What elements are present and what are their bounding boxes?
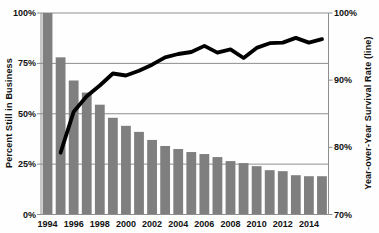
right-tick-label-90%: 90% bbox=[334, 75, 352, 85]
bar-2009 bbox=[239, 163, 249, 214]
x-tick-label-1996: 1996 bbox=[64, 219, 84, 229]
bar-2007 bbox=[213, 157, 223, 214]
bar-2010 bbox=[252, 166, 262, 214]
x-tick-label-2012: 2012 bbox=[273, 219, 293, 229]
bar-2013 bbox=[291, 175, 301, 214]
survival-rate-chart: 0%25%50%75%100%70%80%90%100%199419961998… bbox=[0, 0, 379, 233]
left-tick-label-25%: 25% bbox=[18, 159, 36, 169]
right-tick-label-80%: 80% bbox=[334, 142, 352, 152]
bar-2002 bbox=[147, 140, 157, 215]
right-tick-label-100%: 100% bbox=[334, 8, 357, 18]
x-tick-label-1994: 1994 bbox=[38, 219, 58, 229]
bar-1996 bbox=[69, 81, 79, 215]
bar-2012 bbox=[278, 171, 288, 214]
chart-plot-area: 0%25%50%75%100%70%80%90%100%199419961998… bbox=[0, 0, 379, 233]
left-tick-label-50%: 50% bbox=[18, 109, 36, 119]
bar-1998 bbox=[95, 105, 105, 215]
bar-2015 bbox=[317, 176, 327, 214]
x-tick-label-2014: 2014 bbox=[299, 219, 319, 229]
bar-2011 bbox=[265, 170, 275, 214]
x-tick-label-1998: 1998 bbox=[90, 219, 110, 229]
left-tick-label-0%: 0% bbox=[23, 210, 36, 220]
bar-2014 bbox=[304, 176, 314, 214]
right-tick-label-70%: 70% bbox=[334, 210, 352, 220]
bar-2001 bbox=[134, 132, 144, 215]
bar-2004 bbox=[173, 149, 183, 214]
x-tick-label-2004: 2004 bbox=[168, 219, 188, 229]
bar-2008 bbox=[226, 161, 236, 214]
x-tick-label-2002: 2002 bbox=[142, 219, 162, 229]
x-tick-label-2000: 2000 bbox=[116, 219, 136, 229]
bar-2006 bbox=[199, 154, 209, 214]
bar-2000 bbox=[121, 126, 131, 215]
bar-1994 bbox=[43, 13, 53, 215]
left-tick-label-75%: 75% bbox=[18, 58, 36, 68]
bar-2005 bbox=[186, 152, 196, 214]
x-tick-label-2006: 2006 bbox=[194, 219, 214, 229]
x-tick-label-2010: 2010 bbox=[247, 219, 267, 229]
right-axis-title: Year-over-Year Survival Rate (line) bbox=[363, 35, 373, 191]
left-tick-label-100%: 100% bbox=[13, 8, 36, 18]
bar-1997 bbox=[82, 93, 92, 215]
bar-2003 bbox=[160, 146, 170, 215]
x-tick-label-2008: 2008 bbox=[220, 219, 240, 229]
bar-1999 bbox=[108, 118, 118, 215]
left-axis-title: Percent Still in Business bbox=[4, 58, 14, 168]
